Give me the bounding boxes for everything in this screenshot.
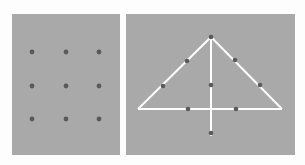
dot bbox=[233, 58, 238, 63]
dot bbox=[64, 50, 69, 55]
dot bbox=[97, 50, 102, 55]
solution-line bbox=[138, 37, 211, 109]
solution-line bbox=[211, 37, 282, 109]
dot bbox=[64, 84, 69, 89]
dot bbox=[97, 84, 102, 89]
dot bbox=[30, 117, 35, 122]
dot bbox=[185, 59, 190, 64]
dot bbox=[161, 84, 166, 89]
dot bbox=[258, 83, 263, 88]
dot bbox=[97, 117, 102, 122]
grid-dots bbox=[30, 50, 102, 122]
dot bbox=[209, 131, 214, 136]
dot bbox=[30, 50, 35, 55]
dot bbox=[234, 107, 239, 112]
dot bbox=[64, 117, 69, 122]
diagram-canvas bbox=[0, 0, 305, 165]
dot bbox=[30, 84, 35, 89]
dot bbox=[209, 83, 214, 88]
dot bbox=[209, 35, 214, 40]
dot bbox=[186, 107, 191, 112]
